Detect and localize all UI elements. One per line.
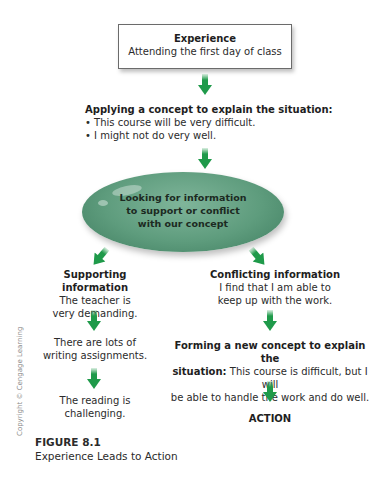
copyright-text: Copyright © Cengage Learning (16, 327, 24, 436)
experience-subtitle: Attending the first day of class (119, 45, 291, 58)
diagonal-arrow-right-icon (246, 244, 271, 270)
supporting-step: The reading is challenging. (30, 394, 160, 420)
supporting-step-line: writing assignments. (30, 349, 160, 362)
supporting-step-line: There are lots of (30, 336, 160, 349)
concept-ellipse: Looking for information to support or co… (82, 172, 284, 252)
figure-label: FIGURE 8.1 (35, 436, 101, 448)
diagonal-arrow-left-icon (88, 244, 113, 270)
ellipse-line: to support or conflict (82, 204, 284, 217)
applying-bullet: • This course will be very difficult. (85, 116, 333, 129)
down-arrow-icon (198, 74, 212, 96)
supporting-step-line: The reading is (30, 394, 160, 407)
forming-text: This course is difficult, but I will (227, 366, 368, 390)
conflicting-line: I find that I am able to (200, 281, 350, 294)
experience-box: Experience Attending the first day of cl… (118, 24, 292, 69)
supporting-step: There are lots of writing assignments. (30, 336, 160, 362)
supporting-step-line: The teacher is (30, 294, 160, 307)
applying-bullet: • I might not do very well. (85, 129, 333, 142)
supporting-heading: Supporting information (30, 268, 160, 294)
conflicting-heading: Conflicting information (200, 268, 350, 281)
conflicting-block: Conflicting information I find that I am… (200, 268, 350, 307)
down-arrow-icon (263, 381, 277, 403)
forming-heading: Forming a new concept to explain the (168, 339, 372, 365)
ellipse-line: with our concept (82, 217, 284, 230)
figure-caption: Experience Leads to Action (35, 450, 178, 462)
ellipse-text: Looking for information to support or co… (82, 191, 284, 230)
ellipse-line: Looking for information (82, 191, 284, 204)
supporting-step-line: challenging. (30, 407, 160, 420)
conflicting-line: keep up with the work. (200, 294, 350, 307)
forming-heading-cont: situation: (172, 366, 226, 377)
action-label: ACTION (220, 412, 320, 425)
down-arrow-icon (87, 368, 101, 390)
down-arrow-icon (263, 310, 277, 332)
applying-heading: Applying a concept to explain the situat… (85, 103, 333, 116)
applying-block: Applying a concept to explain the situat… (85, 103, 333, 142)
down-arrow-icon (198, 148, 212, 170)
down-arrow-icon (87, 310, 101, 332)
experience-title: Experience (119, 32, 291, 45)
